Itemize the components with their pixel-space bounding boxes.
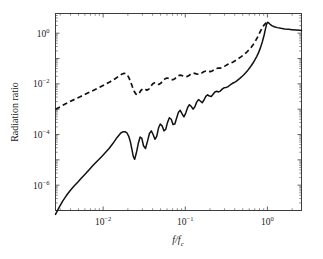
figure-container: 10−210−1100 10010−210−410−6 f/fc Radiati… bbox=[0, 0, 323, 259]
x-axis-title-sub: c bbox=[181, 240, 184, 247]
y-axis-title: Radiation ratio bbox=[9, 82, 20, 142]
radiation-ratio-chart: 10−210−1100 10010−210−410−6 f/fc Radiati… bbox=[0, 0, 323, 259]
